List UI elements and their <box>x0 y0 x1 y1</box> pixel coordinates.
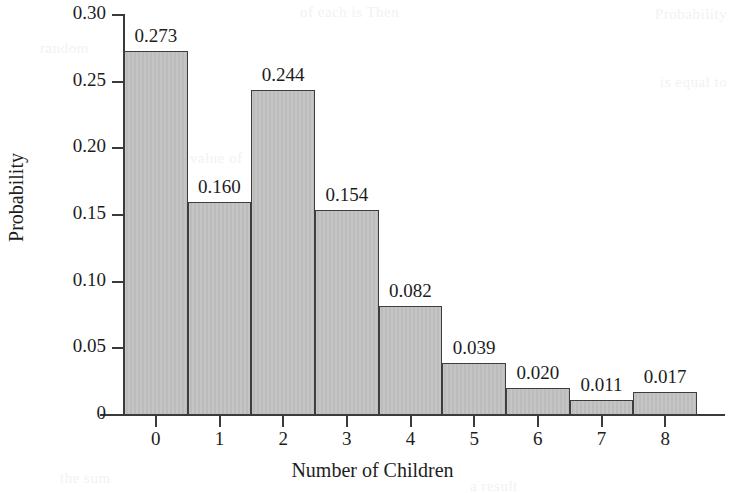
x-axis-tick-label: 7 <box>582 428 622 450</box>
bar-value-label: 0.154 <box>295 184 399 206</box>
x-axis-tick-label: 0 <box>136 428 176 450</box>
x-axis-tick <box>410 416 412 427</box>
y-axis-tick-label: 0.20 <box>73 135 106 157</box>
y-axis-tick-label: 0.15 <box>73 202 106 224</box>
y-axis-tick <box>112 14 123 16</box>
x-axis-tick <box>601 416 603 427</box>
bar <box>315 210 379 415</box>
x-axis-tick-label: 4 <box>391 428 431 450</box>
y-axis-tick <box>112 147 123 149</box>
x-axis-tick <box>219 416 221 427</box>
y-axis-tick-label: 0.30 <box>73 2 106 24</box>
y-axis-tick <box>112 214 123 216</box>
x-axis-tick <box>473 416 475 427</box>
bar-value-label: 0.082 <box>359 280 463 302</box>
y-axis-tick-label: 0.25 <box>73 69 106 91</box>
x-axis-tick <box>537 416 539 427</box>
bar-value-label: 0.244 <box>231 64 335 86</box>
x-axis-tick-label: 2 <box>263 428 303 450</box>
y-axis-tick <box>112 347 123 349</box>
y-axis-tick <box>112 281 123 283</box>
y-axis-tick <box>112 414 123 416</box>
y-axis-title: Probability <box>5 98 28 298</box>
x-axis-tick <box>664 416 666 427</box>
bar-value-label: 0.017 <box>613 366 717 388</box>
y-axis-tick <box>112 81 123 83</box>
bar <box>379 306 443 415</box>
bar <box>124 51 188 415</box>
bar <box>188 202 252 415</box>
y-axis-tick-label: 0.10 <box>73 269 106 291</box>
probability-bar-chart: 00.050.100.150.200.250.30 012345678 0.27… <box>0 0 745 493</box>
bar-value-label: 0.273 <box>104 25 208 47</box>
x-axis-tick-label: 8 <box>645 428 685 450</box>
x-axis-tick-label: 1 <box>200 428 240 450</box>
x-axis-title: Number of Children <box>0 459 745 482</box>
x-axis-tick-label: 5 <box>454 428 494 450</box>
bar <box>570 400 634 415</box>
y-axis-tick-label: 0 <box>97 402 107 424</box>
x-axis-tick-label: 3 <box>327 428 367 450</box>
plot-area <box>124 15 697 415</box>
x-axis-tick <box>282 416 284 427</box>
bar-value-label: 0.160 <box>168 176 272 198</box>
x-axis-tick <box>155 416 157 427</box>
bar-value-label: 0.039 <box>422 337 526 359</box>
bar <box>251 90 315 415</box>
y-axis-tick-label: 0.05 <box>73 335 106 357</box>
x-axis-tick <box>346 416 348 427</box>
x-axis-tick-label: 6 <box>518 428 558 450</box>
